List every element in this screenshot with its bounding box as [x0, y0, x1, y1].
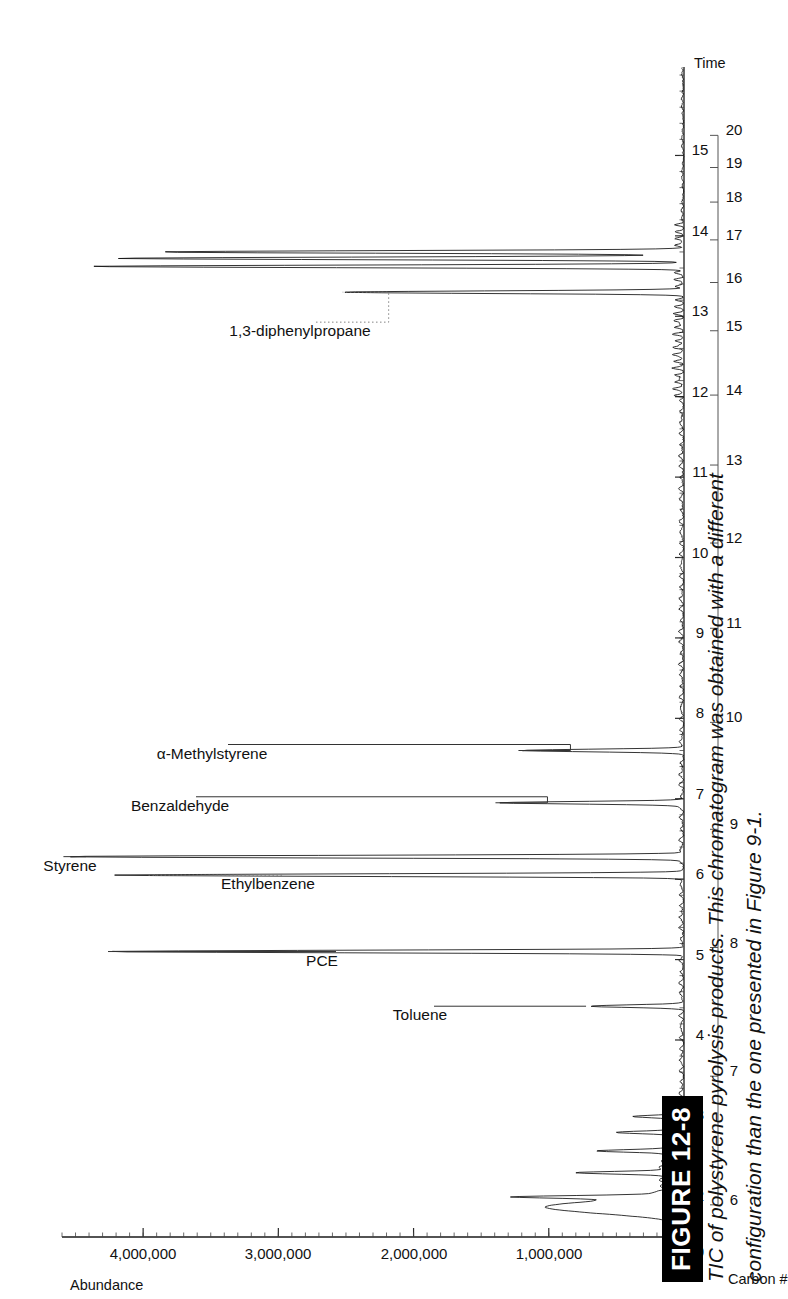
x-axis-title: Time: [694, 55, 726, 71]
carbon-tick-label: 8: [730, 933, 738, 950]
carbon-tick-label: 16: [726, 268, 743, 285]
carbon-tick-label: 12: [726, 529, 743, 546]
carbon-tick-label: 20: [726, 121, 743, 138]
carbon-tick-label: 13: [726, 451, 743, 468]
peak-label: 1,3-diphenylpropane: [229, 322, 370, 340]
time-tick-label: 4: [696, 1026, 704, 1043]
time-tick-label: 11: [692, 463, 708, 480]
time-tick-label: 10: [692, 543, 709, 560]
carbon-tick-label: 7: [730, 1062, 738, 1079]
time-tick-label: 8: [696, 704, 704, 721]
peak-label: Ethylbenzene: [221, 875, 315, 893]
carbon-tick-label: 10: [726, 708, 743, 725]
carbon-axis-title: Carbon #: [728, 1271, 788, 1287]
time-tick-label: 3: [696, 1106, 704, 1123]
abundance-tick-label: 3,000,000: [245, 1245, 312, 1262]
y-axis-title: Abundance: [70, 1277, 143, 1293]
time-tick-label: 15: [692, 141, 709, 158]
peak-label: Toluene: [393, 1006, 447, 1024]
carbon-tick-label: 9: [730, 815, 738, 832]
time-tick-label: 13: [692, 302, 709, 319]
peak-label: Benzaldehyde: [131, 797, 229, 815]
carbon-tick-label: 18: [726, 188, 743, 205]
abundance-tick-label: 2,000,000: [380, 1245, 447, 1262]
carbon-tick-label: 19: [726, 153, 743, 170]
carbon-tick-label: 6: [730, 1190, 738, 1207]
abundance-tick-label: 0: [680, 1245, 688, 1262]
peak-label: α-Methylstyrene: [157, 745, 268, 763]
abundance-tick-label: 4,000,000: [110, 1245, 177, 1262]
time-tick-label: 6: [696, 865, 704, 882]
peak-label: Styrene: [43, 857, 96, 875]
carbon-tick-label: 14: [726, 381, 743, 398]
time-tick-label: 12: [692, 382, 709, 399]
peak-label: PCE: [306, 952, 338, 970]
time-tick-label: 9: [696, 623, 704, 640]
abundance-tick-label: 1,000,000: [515, 1245, 582, 1262]
time-tick-label: 7: [696, 784, 704, 801]
carbon-tick-label: 17: [726, 225, 743, 242]
time-tick-label: 5: [696, 945, 704, 962]
carbon-tick-label: 15: [726, 316, 743, 333]
time-tick-label: 14: [692, 221, 709, 238]
carbon-tick-label: 11: [726, 614, 742, 631]
time-tick-label: 2: [696, 1186, 704, 1203]
time-axis-zero-label: 0: [696, 1243, 704, 1260]
